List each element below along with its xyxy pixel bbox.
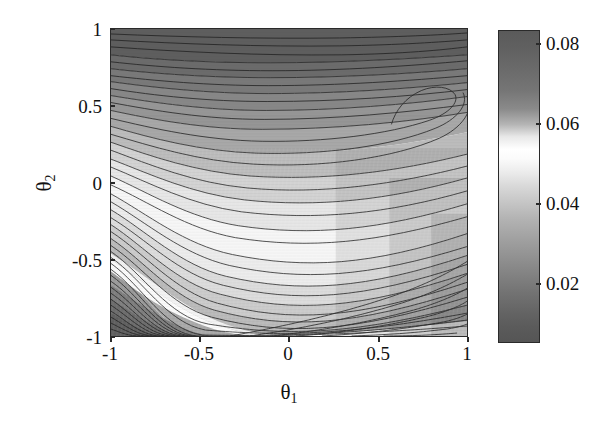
- x-axis-label-symbol: θ: [280, 380, 290, 404]
- y-ticklabel-0: 1: [62, 20, 102, 39]
- y-ticklabel-4: -1: [58, 328, 102, 347]
- x-axis-label-subscript: 1: [291, 391, 298, 406]
- colorbar-tick-2: [536, 203, 541, 205]
- y-ticklabel-1: 0.5: [62, 97, 102, 116]
- y-tick-1: [110, 105, 115, 107]
- x-ticklabel-4: 1: [462, 344, 472, 363]
- colorbar-gradient: [499, 31, 539, 342]
- x-ticklabel-1: -0.5: [184, 344, 214, 363]
- x-ticklabel-0: -1: [102, 344, 118, 363]
- colorbar-label-1: 0.06: [546, 114, 579, 133]
- y-tick-3: [110, 259, 115, 261]
- colorbar-label-3: 0.02: [546, 274, 579, 293]
- colorbar-tick-3: [536, 283, 541, 285]
- x-tick-1: [199, 337, 201, 342]
- x-ticklabel-3: 0.5: [366, 344, 390, 363]
- x-tick-2: [288, 337, 290, 342]
- y-tick-4: [110, 336, 115, 338]
- colorbar-tick-1: [536, 123, 541, 125]
- x-tick-4: [467, 337, 469, 342]
- colorbar-tick-0: [536, 43, 541, 45]
- x-ticklabel-2: 0: [283, 344, 293, 363]
- plot-axes: [110, 28, 468, 337]
- y-ticklabel-3: -0.5: [58, 251, 102, 270]
- x-tick-3: [378, 337, 380, 342]
- y-axis-label-subscript: 2: [43, 174, 58, 181]
- y-tick-0: [110, 28, 115, 30]
- x-axis-label: θ1: [280, 382, 297, 406]
- colorbar: [498, 30, 540, 343]
- contour-surface: [111, 29, 467, 336]
- colorbar-label-0: 0.08: [546, 34, 579, 53]
- y-axis-label-symbol: θ: [32, 181, 56, 191]
- y-ticklabel-2: 0: [62, 174, 102, 193]
- y-axis-label: θ2: [34, 174, 58, 191]
- x-tick-0: [110, 337, 112, 342]
- contour-figure: -1 -0.5 0 0.5 1 1 0.5 0 -0.5 -1 θ1 θ2 0.…: [0, 0, 613, 424]
- colorbar-label-2: 0.04: [546, 194, 579, 213]
- y-tick-2: [110, 182, 115, 184]
